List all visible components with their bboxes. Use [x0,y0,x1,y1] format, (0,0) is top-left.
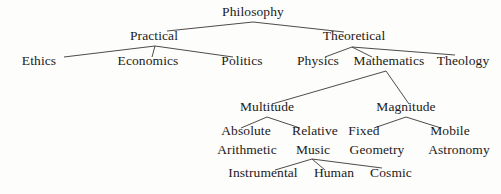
tree-node-mathematics: Mathematics [354,54,425,68]
tree-node-practical: Practical [130,29,178,43]
tree-node-human: Human [314,166,354,180]
tree-node-geometry: Geometry [350,143,405,157]
tree-node-arithmetic: Arithmetic [217,143,276,157]
tree-node-magnitude: Magnitude [376,100,435,114]
tree-node-instrumental: Instrumental [228,166,297,180]
tree-node-multitude: Multitude [240,100,294,114]
tree-node-absolute: Absolute [221,124,271,138]
tree-node-layer: PhilosophyPracticalTheoreticalEthicsEcon… [0,0,501,194]
tree-diagram: PhilosophyPracticalTheoreticalEthicsEcon… [0,0,501,194]
tree-node-economics: Economics [118,54,179,68]
tree-node-cosmic: Cosmic [370,166,412,180]
tree-node-politics: Politics [221,54,262,68]
tree-node-physics: Physics [297,54,339,68]
tree-node-astronomy: Astronomy [428,143,490,157]
tree-node-theology: Theology [437,54,490,68]
tree-node-relative: Relative [292,124,338,138]
tree-node-music: Music [296,143,330,157]
tree-node-philosophy: Philosophy [222,5,284,19]
tree-node-fixed: Fixed [348,124,379,138]
tree-node-theoretical: Theoretical [323,29,386,43]
tree-node-mobile: Mobile [430,124,470,138]
tree-node-ethics: Ethics [22,54,56,68]
